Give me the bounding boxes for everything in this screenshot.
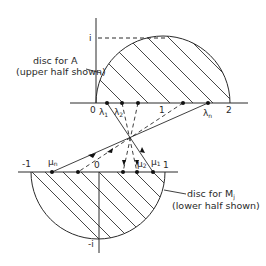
pairing-lines xyxy=(52,103,208,172)
label-minus-i: -i xyxy=(88,239,94,249)
label-lambdan: λn xyxy=(203,108,212,119)
label-upper-2: 2 xyxy=(226,105,232,115)
upper-disc-boundary xyxy=(96,36,230,103)
label-lambda1: λ1 xyxy=(99,107,108,118)
upper-annotation-line1: disc for A xyxy=(33,55,78,66)
label-lower-minus1: -1 xyxy=(22,159,31,169)
lower-annotation-line2: (lower half shown) xyxy=(172,200,260,211)
label-mun: μn xyxy=(48,157,58,167)
label-upper-0: 0 xyxy=(90,105,96,115)
dot-lambda2 xyxy=(120,101,124,105)
arrow-icon xyxy=(107,148,113,153)
label-mu1: μ1 xyxy=(151,157,161,167)
arrow-icon xyxy=(140,147,145,153)
dot-lambda1 xyxy=(105,101,109,105)
lower-annotation-leader xyxy=(164,190,186,194)
arrow-icon xyxy=(122,160,126,166)
dot-upper xyxy=(136,101,140,105)
dot-lower xyxy=(76,170,80,174)
label-i: i xyxy=(89,33,92,43)
label-upper-1: 1 xyxy=(159,105,165,115)
arrow-icon xyxy=(88,153,96,158)
upper-annotation-line2: (upper half shown) xyxy=(16,66,106,77)
dot-lambdan xyxy=(206,101,210,105)
dot-upper xyxy=(181,101,185,105)
dot-lower xyxy=(121,170,125,174)
eigenvalue-disc-diagram: i 0 1 2 λ1 λ2 λn disc for A (upper half … xyxy=(0,0,266,266)
diagram-canvas: i 0 1 2 λ1 λ2 λn disc for A (upper half … xyxy=(0,0,266,266)
dot-mu1 xyxy=(151,170,155,174)
label-lower-0: 0 xyxy=(94,160,100,170)
line-lambda1-to-mu1 xyxy=(107,103,153,172)
label-lower-1: 1 xyxy=(163,160,169,170)
dot-mun xyxy=(50,170,54,174)
dot-mu2 xyxy=(135,170,139,174)
